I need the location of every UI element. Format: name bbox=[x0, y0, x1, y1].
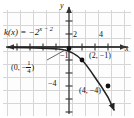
point-4-marker bbox=[106, 84, 111, 89]
point-2-marker bbox=[80, 58, 85, 63]
y-tick-label-minus1: −1 bbox=[60, 52, 69, 60]
y-axis-label: y bbox=[60, 2, 64, 10]
function-equation-text: k(x) = −2 bbox=[4, 27, 39, 37]
exponential-function-figure: k(x) = −2x − 2 y x 2 4 −1 −4 (0, −14) (2… bbox=[0, 0, 134, 118]
point-label-origin: (0, −14) bbox=[11, 60, 34, 75]
function-exponent: x − 2 bbox=[39, 25, 53, 32]
x-tick-label-4: 4 bbox=[99, 31, 103, 39]
point-label-origin-suffix: ) bbox=[31, 63, 34, 72]
x-axis-label: x bbox=[125, 45, 129, 53]
x-tick-label-2: 2 bbox=[73, 31, 77, 39]
y-axis bbox=[66, 7, 73, 114]
point-label-origin-prefix: (0, − bbox=[11, 63, 26, 72]
function-equation-label: k(x) = −2x − 2 bbox=[4, 26, 53, 37]
point-label-2-minus1: (2, −1) bbox=[89, 52, 111, 60]
point-label-4-minus4: (4, −4) bbox=[79, 87, 101, 95]
y-tick-label-minus4: −4 bbox=[48, 80, 57, 88]
